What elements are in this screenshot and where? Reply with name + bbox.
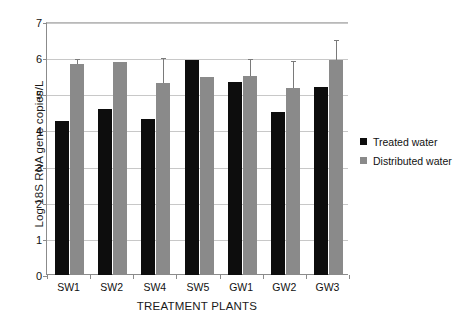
x-tick-label-gw3: GW3: [315, 281, 339, 293]
bar-distributed: [113, 62, 127, 275]
x-tick-label-sw1: SW1: [57, 281, 80, 293]
bar-distributed: [156, 83, 170, 275]
bar-group: [185, 23, 214, 275]
x-tick-label-gw2: GW2: [272, 281, 296, 293]
y-tick-mark: [43, 168, 47, 169]
x-tick-mark: [349, 275, 350, 279]
bar-group: [55, 23, 84, 275]
y-tick-label: 7: [36, 17, 42, 29]
bar-group: [141, 23, 170, 275]
y-tick-label: 4: [36, 125, 42, 137]
error-bar: [163, 58, 164, 83]
bar-treated: [141, 119, 155, 275]
bar-distributed: [70, 64, 84, 275]
y-tick-label: 6: [36, 53, 42, 65]
bar-treated: [98, 109, 112, 275]
error-bar-cap: [248, 59, 253, 60]
legend-swatch-icon: [360, 157, 367, 164]
bar-treated: [228, 82, 242, 275]
x-tick-mark: [176, 275, 177, 279]
bar-treated: [271, 112, 285, 275]
error-bar-cap: [291, 61, 296, 62]
y-tick-label: 3: [36, 162, 42, 174]
y-tick-mark: [43, 23, 47, 24]
bar-chart: Log 18S RNA gene copies/L 01234567SW1SW2…: [0, 0, 457, 327]
error-bar-cap: [161, 58, 166, 59]
bar-group: [98, 23, 127, 275]
bar-treated: [314, 87, 328, 275]
error-bar-cap: [75, 59, 80, 60]
legend-label: Distributed water: [373, 155, 452, 167]
bar-group: [271, 23, 300, 275]
x-tick-label-sw2: SW2: [100, 281, 123, 293]
y-tick-mark: [43, 204, 47, 205]
y-tick-label: 0: [36, 270, 42, 282]
bar-distributed: [286, 88, 300, 275]
x-tick-mark: [47, 275, 48, 279]
legend-swatch-icon: [360, 138, 367, 145]
x-axis-title: TREATMENT PLANTS: [46, 300, 348, 312]
bar-treated: [55, 121, 69, 275]
y-tick-label: 1: [36, 234, 42, 246]
legend-label: Treated water: [373, 136, 437, 148]
y-tick-label: 2: [36, 198, 42, 210]
error-bar: [336, 40, 337, 60]
x-tick-mark: [133, 275, 134, 279]
x-tick-mark: [220, 275, 221, 279]
x-tick-label-gw1: GW1: [229, 281, 253, 293]
error-bar: [77, 59, 78, 63]
plot-area: 01234567SW1SW2SW4SW5GW1GW2GW3: [46, 22, 348, 275]
bar-group: [314, 23, 343, 275]
x-tick-mark: [306, 275, 307, 279]
bar-treated: [185, 60, 199, 275]
bar-distributed: [243, 76, 257, 275]
bar-distributed: [200, 77, 214, 275]
error-bar: [293, 61, 294, 88]
error-bar: [250, 59, 251, 76]
y-tick-mark: [43, 240, 47, 241]
x-tick-label-sw4: SW4: [143, 281, 166, 293]
legend-item: Distributed water: [360, 152, 452, 169]
y-tick-mark: [43, 95, 47, 96]
y-tick-label: 5: [36, 89, 42, 101]
x-tick-mark: [263, 275, 264, 279]
x-tick-mark: [90, 275, 91, 279]
error-bar-cap: [334, 40, 339, 41]
y-tick-mark: [43, 59, 47, 60]
legend-item: Treated water: [360, 133, 452, 150]
y-tick-mark: [43, 131, 47, 132]
x-tick-label-sw5: SW5: [187, 281, 210, 293]
bar-group: [228, 23, 257, 275]
bar-distributed: [329, 60, 343, 275]
chart-legend: Treated waterDistributed water: [360, 133, 452, 171]
